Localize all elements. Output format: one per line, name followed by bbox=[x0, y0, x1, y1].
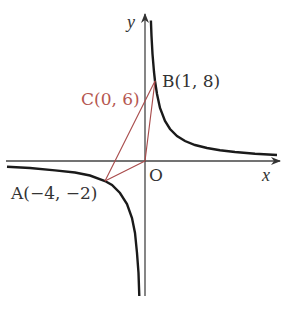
point-a-label: A(−4, −2) bbox=[10, 183, 97, 203]
point-b-label: B(1, 8) bbox=[162, 71, 220, 91]
origin-label: O bbox=[149, 165, 163, 185]
segment-OB bbox=[145, 81, 155, 161]
y-axis-label: y bbox=[125, 12, 135, 32]
segment-AO bbox=[105, 161, 145, 181]
coordinate-diagram: y x O B(1, 8) C(0, 6) A(−4, −2) bbox=[0, 0, 292, 331]
x-axis-label: x bbox=[261, 165, 270, 185]
point-c-label: C(0, 6) bbox=[81, 89, 140, 109]
